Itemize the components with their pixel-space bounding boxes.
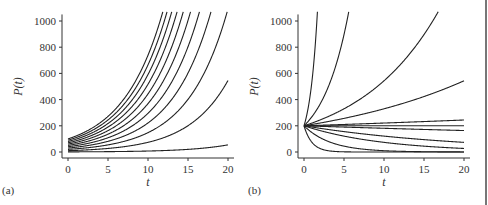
curve-P0-1 <box>68 145 228 152</box>
panel-label: (a) <box>2 184 15 197</box>
y-tick-label: 1000 <box>270 15 293 27</box>
curve-P0-30 <box>68 12 211 148</box>
y-tick-label: 600 <box>276 67 293 79</box>
y-tick-label: 400 <box>40 94 57 106</box>
curve-P0-100 <box>68 12 163 139</box>
x-tick-label: 20 <box>459 163 471 175</box>
y-tick-label: 0 <box>287 146 293 158</box>
x-tick-label: 10 <box>143 163 155 175</box>
y-tick-label: 200 <box>276 120 293 132</box>
x-axis-label: t <box>382 175 386 189</box>
curve-P0-80 <box>68 12 172 142</box>
x-tick-label: 5 <box>341 163 347 175</box>
page-border <box>485 0 487 205</box>
x-tick-label: 15 <box>419 163 431 175</box>
y-tick-label: 600 <box>40 67 57 79</box>
y-axis-label: P(t) <box>11 77 25 97</box>
x-tick-label: 20 <box>223 163 235 175</box>
x-tick-label: 0 <box>65 163 71 175</box>
panel-b-plot: 0200400600800100005101520tP(t)(b) <box>247 12 470 197</box>
y-axis-label: P(t) <box>247 77 261 97</box>
y-tick-label: 400 <box>276 94 293 106</box>
curve-r-1 <box>304 12 317 126</box>
curve-P0-50 <box>68 12 191 146</box>
y-tick-label: 200 <box>40 120 57 132</box>
x-tick-label: 5 <box>105 163 111 175</box>
panel-a-plot: 0200400600800100005101520tP(t)(a) <box>2 12 234 197</box>
x-tick-label: 0 <box>301 163 307 175</box>
x-axis-label: t <box>146 175 150 189</box>
curve-r-0.3 <box>304 12 349 126</box>
figure: 0200400600800100005101520tP(t)(a) 020040… <box>0 0 488 205</box>
x-tick-label: 10 <box>379 163 391 175</box>
y-tick-label: 800 <box>276 41 293 53</box>
x-tick-label: 15 <box>183 163 195 175</box>
curve-r-0.01 <box>304 120 464 126</box>
y-tick-label: 1000 <box>34 15 57 27</box>
panel-label: (b) <box>248 184 261 197</box>
y-tick-label: 800 <box>40 41 57 53</box>
curve-r-0.1 <box>304 12 438 126</box>
curve-P0-40 <box>68 12 199 147</box>
y-tick-label: 0 <box>51 146 57 158</box>
